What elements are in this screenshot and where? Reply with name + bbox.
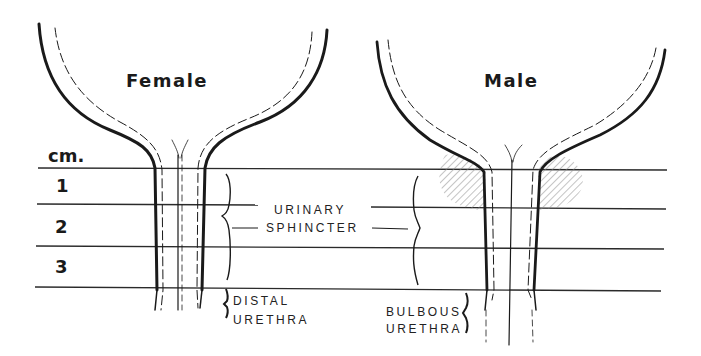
urethra-sphincter-diagram: Female Male cm. 1 2 3 URINARY SPHINCTER … [0,0,701,356]
scale-line-2cm [36,246,664,249]
diagram-drawing [0,0,701,356]
sphincter-leader-right [372,228,408,229]
male-bulbous-brace [463,293,468,333]
urinary-sphincter-label-line1: URINARY [274,203,346,217]
scale-mark-1: 1 [56,175,69,196]
female-bladder [39,24,327,310]
male-title: Male [484,70,538,91]
scale-line-3cm [35,287,661,291]
distal-urethra-label-line1: DISTAL [233,294,290,308]
scale-unit-label: cm. [48,145,84,166]
female-distal-brace [224,289,228,318]
bulbous-urethra-label-line2: URETHRA [386,322,462,336]
distal-urethra-label-line2: URETHRA [233,313,309,327]
scale-line-1cm-left [37,204,258,205]
bulbous-urethra-label-line1: BULBOUS [386,305,462,319]
female-sphincter-brace [222,174,230,280]
urinary-sphincter-label-line2: SPHINCTER [266,221,359,235]
scale-mark-2: 2 [55,216,68,237]
male-hatch-left [439,154,486,210]
scale-mark-3: 3 [55,256,68,277]
male-sphincter-brace [413,176,420,285]
female-title: Female [126,70,208,91]
scale-line-1cm-right [371,207,666,209]
